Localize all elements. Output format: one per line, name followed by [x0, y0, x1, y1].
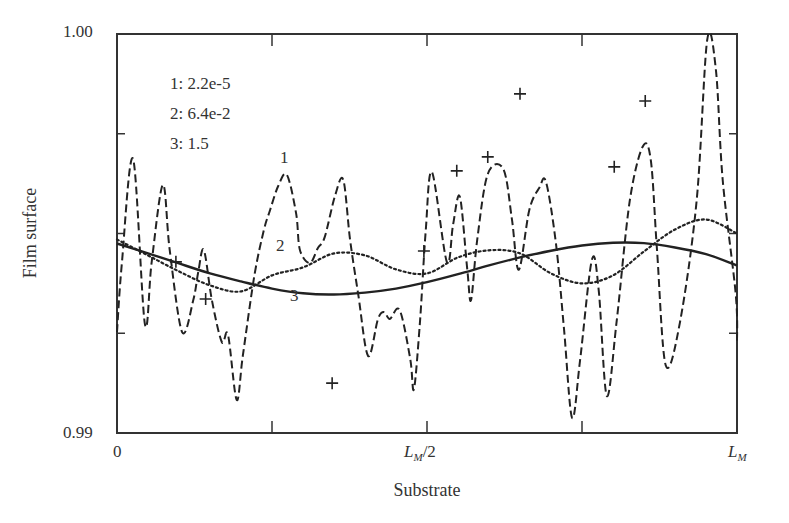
- x-tick-label-half: LM/2: [404, 442, 436, 463]
- legend-entry-3: 3: 1.5: [170, 134, 209, 154]
- y-axis-title: Film surface: [20, 188, 41, 278]
- x-tick-label-full: LM: [728, 442, 747, 463]
- plus-marker: [608, 161, 620, 173]
- x-axis-title: Substrate: [394, 480, 461, 501]
- plus-marker: [514, 88, 526, 100]
- curve-tag-1: 1: [280, 148, 289, 168]
- curve-tag-2: 2: [276, 236, 285, 256]
- data-point-markers: [170, 88, 651, 389]
- y-tick-label-bottom: 0.99: [63, 423, 93, 443]
- series-line-3: [117, 242, 737, 294]
- plus-marker: [326, 377, 338, 389]
- legend-entry-1: 1: 2.2e-5: [170, 74, 230, 94]
- x-tick-half-suffix: /2: [423, 442, 436, 461]
- plus-marker: [451, 165, 463, 177]
- legend-entry-2: 2: 6.4e-2: [170, 104, 230, 124]
- series-line-2: [117, 219, 737, 291]
- curve-tag-3: 3: [290, 286, 299, 306]
- plus-marker: [200, 293, 212, 305]
- plus-marker: [639, 95, 651, 107]
- plus-marker: [418, 245, 430, 257]
- y-tick-label-top: 1.00: [63, 22, 93, 42]
- x-tick-full-sub: M: [737, 451, 746, 463]
- x-tick-half-sub: M: [413, 451, 422, 463]
- x-tick-label-zero: 0: [113, 442, 122, 462]
- plus-marker: [482, 151, 494, 163]
